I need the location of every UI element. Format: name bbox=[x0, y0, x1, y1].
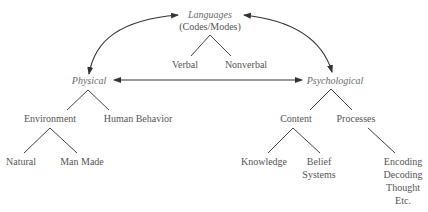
node-environment: Environment bbox=[24, 113, 76, 124]
edge-psychological-processes bbox=[331, 89, 352, 110]
node-psychological: Psychological bbox=[306, 75, 364, 86]
node-etc: Etc. bbox=[395, 195, 411, 206]
arrow-languages-physical bbox=[89, 15, 178, 74]
edge-languages-verbal bbox=[191, 35, 210, 56]
node-systems: Systems bbox=[302, 169, 335, 180]
node-nonverbal: Nonverbal bbox=[225, 59, 267, 70]
edge-physical-environment bbox=[67, 90, 88, 110]
edge-psychological-content bbox=[310, 89, 331, 110]
node-thought: Thought bbox=[386, 182, 420, 193]
node-natural: Natural bbox=[6, 156, 36, 167]
node-languages-sublabel: (Codes/Modes) bbox=[179, 21, 241, 33]
edge-content-belief-systems bbox=[293, 128, 320, 153]
edge-physical-human-behavior bbox=[88, 90, 109, 110]
node-encoding: Encoding bbox=[384, 156, 422, 167]
node-decoding: Decoding bbox=[384, 169, 423, 180]
edge-processes-encoding bbox=[368, 128, 395, 153]
node-processes: Processes bbox=[337, 113, 376, 124]
node-man-made: Man Made bbox=[60, 156, 104, 167]
communication-model-diagram: Languages (Codes/Modes) Verbal Nonverbal… bbox=[0, 0, 428, 212]
node-human-behavior: Human Behavior bbox=[104, 113, 173, 124]
node-belief: Belief bbox=[307, 156, 332, 167]
edge-environment-natural bbox=[24, 128, 50, 153]
edge-environment-man-made bbox=[50, 128, 77, 153]
node-content: Content bbox=[280, 113, 312, 124]
node-knowledge: Knowledge bbox=[241, 156, 288, 167]
edge-content-knowledge bbox=[268, 128, 293, 153]
edge-languages-nonverbal bbox=[210, 35, 231, 56]
node-languages: Languages bbox=[187, 9, 232, 20]
node-physical: Physical bbox=[71, 75, 107, 86]
node-verbal: Verbal bbox=[172, 59, 198, 70]
